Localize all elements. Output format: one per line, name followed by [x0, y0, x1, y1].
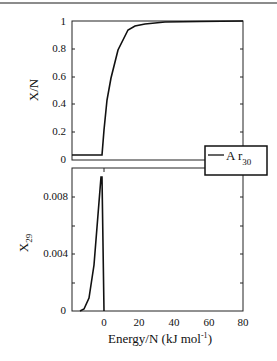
xlabel: Energy/N (kJ mol-1): [108, 331, 212, 346]
chart: 1 0.8 0.6 0.4 0.2 0 X/N 0.008 0.004 0 X2…: [0, 0, 277, 361]
xtick: 60: [204, 316, 216, 328]
bottom-ytick: 0.004: [43, 247, 68, 259]
top-ytick: 0: [61, 153, 67, 165]
top-y-ticks: [72, 49, 243, 132]
xtick: 20: [134, 316, 146, 328]
top-ytick: 0.6: [52, 70, 66, 82]
bottom-ytick: 0: [61, 304, 67, 316]
top-ytick: 0.2: [52, 125, 66, 137]
xtick: 40: [169, 316, 181, 328]
xtick: 0: [101, 316, 107, 328]
bottom-ytick: 0.008: [43, 190, 68, 202]
legend: A r30: [205, 146, 267, 175]
top-panel-frame: [72, 21, 243, 160]
top-ylabel: X/N: [26, 78, 41, 101]
top-ytick: 0.8: [52, 42, 66, 54]
top-ytick: 1: [61, 15, 67, 27]
top-series-line: [72, 21, 243, 155]
bottom-series-line: [80, 177, 104, 311]
top-ytick: 0.4: [52, 97, 66, 109]
xtick: 80: [238, 316, 250, 328]
bottom-panel-frame: [72, 168, 243, 311]
bottom-ylabel: X29: [16, 233, 34, 252]
